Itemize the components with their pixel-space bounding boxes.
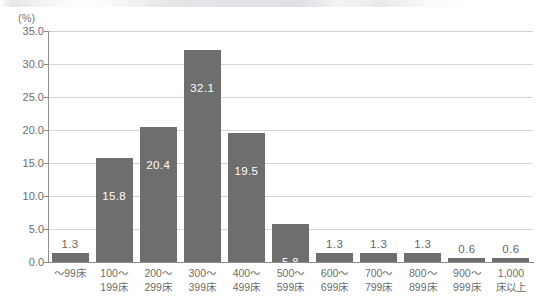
x-axis-tick-label: 400～499床 (224, 267, 268, 294)
x-axis-tick-label-line: 100～ (92, 267, 136, 281)
x-axis-tick-label-line: 500～ (268, 267, 312, 281)
y-axis-tick-label: 30.0 (0, 58, 44, 70)
bar-group[interactable]: 5.8 (272, 31, 309, 262)
y-axis-tick-mark (44, 64, 49, 65)
x-axis-tick-label-line: 599床 (268, 281, 312, 295)
bar[interactable] (360, 253, 397, 262)
y-axis-tick-mark (44, 31, 49, 32)
y-axis-tick-mark (44, 196, 49, 197)
x-axis-tick-label: 1,000床以上 (489, 267, 533, 294)
x-axis-tick-label-line: 999床 (445, 281, 489, 295)
x-axis-tick-label: 600～699床 (313, 267, 357, 294)
bar-value-label: 0.6 (448, 243, 485, 255)
x-axis-tick-label-line: ～99床 (48, 267, 92, 281)
y-axis-tick-mark (44, 97, 49, 98)
x-axis-tick-label-line: 399床 (180, 281, 224, 295)
bar-value-label: 15.8 (96, 190, 133, 202)
bar[interactable] (316, 253, 353, 262)
y-axis-tick-mark (44, 229, 49, 230)
x-axis-tick-label: 700～799床 (357, 267, 401, 294)
x-axis-tick-label-line: 299床 (136, 281, 180, 295)
bar-value-label: 1.3 (404, 238, 441, 250)
x-axis-tick-label-line: 499床 (224, 281, 268, 295)
bar-value-label: 1.3 (52, 238, 89, 250)
x-axis-tick-label: 800～899床 (401, 267, 445, 294)
bar-value-label: 0.6 (492, 243, 529, 255)
bar-value-label: 19.5 (228, 165, 265, 177)
bar-value-label: 1.3 (316, 238, 353, 250)
x-axis-tick-label-line: 900～ (445, 267, 489, 281)
bar[interactable] (404, 253, 441, 262)
x-axis-tick-label-line: 700～ (357, 267, 401, 281)
y-axis-tick-mark (44, 163, 49, 164)
bar[interactable] (228, 133, 265, 262)
y-axis-tick-label: 15.0 (0, 157, 44, 169)
bar-group[interactable]: 20.4 (140, 31, 177, 262)
y-axis-tick-label: 5.0 (0, 223, 44, 235)
x-axis-tick-label-line: 899床 (401, 281, 445, 295)
bar-group[interactable]: 0.6 (448, 31, 485, 262)
bar-group[interactable]: 1.3 (360, 31, 397, 262)
x-axis-tick-label-line: 300～ (180, 267, 224, 281)
x-axis-tick-label: 100～199床 (92, 267, 136, 294)
x-axis-tick-label-line: 床以上 (489, 281, 533, 295)
plot-area: 1.315.820.432.119.55.81.31.31.30.60.6 (48, 31, 533, 262)
x-axis-tick-label: ～99床 (48, 267, 92, 281)
y-axis-tick-mark (44, 262, 49, 263)
bar-value-label: 20.4 (140, 159, 177, 171)
x-axis-tick-label-line: 1,000 (489, 267, 533, 281)
x-axis-tick-label: 200～299床 (136, 267, 180, 294)
x-axis-tick-label: 300～399床 (180, 267, 224, 294)
bar[interactable] (140, 127, 177, 262)
bar-value-label: 32.1 (184, 82, 221, 94)
bar-group[interactable]: 1.3 (52, 31, 89, 262)
bar-group[interactable]: 15.8 (96, 31, 133, 262)
x-axis-tick-label-line: 699床 (313, 281, 357, 295)
x-axis-line (48, 262, 534, 263)
x-axis-tick-label-line: 800～ (401, 267, 445, 281)
bar-group[interactable]: 19.5 (228, 31, 265, 262)
y-axis-tick-mark (44, 130, 49, 131)
bar-group[interactable]: 1.3 (316, 31, 353, 262)
y-axis-tick-label: 35.0 (0, 25, 44, 37)
x-axis-tick-label: 500～599床 (268, 267, 312, 294)
x-axis-tick-label: 900～999床 (445, 267, 489, 294)
y-axis-unit-label: (%) (18, 12, 35, 24)
x-axis-tick-label-line: 400～ (224, 267, 268, 281)
x-axis-tick-label-line: 799床 (357, 281, 401, 295)
x-axis-tick-label-line: 600～ (313, 267, 357, 281)
bar-group[interactable]: 1.3 (404, 31, 441, 262)
y-axis-tick-label: 10.0 (0, 190, 44, 202)
bar[interactable] (52, 253, 89, 262)
y-axis-tick-label: 25.0 (0, 91, 44, 103)
bar-group[interactable]: 0.6 (492, 31, 529, 262)
bar-value-label: 1.3 (360, 238, 397, 250)
bar-group[interactable]: 32.1 (184, 31, 221, 262)
x-axis-tick-label-line: 200～ (136, 267, 180, 281)
bar-chart: (%) 1.315.820.432.119.55.81.31.31.30.60.… (0, 0, 545, 303)
x-axis-tick-label-line: 199床 (92, 281, 136, 295)
y-axis-tick-label: 20.0 (0, 124, 44, 136)
bar[interactable] (96, 158, 133, 262)
y-axis-tick-label: 0.0 (0, 256, 44, 268)
